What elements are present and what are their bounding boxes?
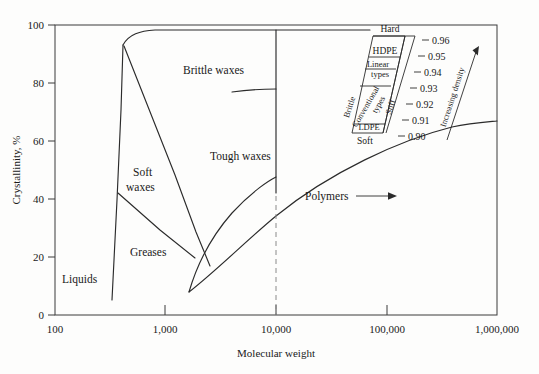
y-tick-label-100: 100 — [28, 19, 45, 31]
x-tick-label-10000: 10,000 — [261, 323, 292, 335]
x-tick-label-1000000: 1,000,000 — [475, 323, 520, 335]
y-axis-ticks — [48, 25, 55, 315]
x-tick-label-100000: 100,000 — [369, 323, 405, 335]
liquids-boundary-curve — [112, 45, 123, 300]
y-tick-label-80: 80 — [33, 77, 45, 89]
top-plateau-curve — [123, 30, 370, 45]
brittle-tough-divider — [232, 89, 276, 92]
x-tick-label-1000: 1,000 — [153, 323, 178, 335]
density-label-ldpe: LDPE — [358, 122, 379, 132]
density-label-hdpe: HDPE — [373, 46, 398, 56]
density-scale-diagram: Hard Soft HDPE Linear types Conventional… — [341, 24, 479, 146]
region-label-soft-waxes-line1: Soft — [133, 166, 153, 178]
y-axis-title: Crystallinity, % — [10, 136, 22, 205]
region-label-soft-waxes-line2: waxes — [126, 181, 155, 193]
chart-page: 100 80 60 40 20 0 100 1,000 10,000 100,0… — [0, 0, 539, 374]
density-label-linear-line2: types — [371, 69, 389, 79]
toughwaxes-upper-boundary — [189, 177, 276, 292]
x-tick-label-100: 100 — [47, 323, 64, 335]
region-label-brittle-waxes: Brittle waxes — [183, 64, 245, 76]
region-label-greases: Greases — [130, 246, 167, 258]
y-tick-label-40: 40 — [33, 193, 45, 205]
density-value-095: 0.95 — [428, 51, 446, 62]
x-axis-title: Molecular weight — [237, 347, 315, 359]
polymers-annotation: Polymers — [305, 190, 397, 203]
y-axis-tick-labels: 100 80 60 40 20 0 — [28, 19, 45, 321]
density-label-soft: Soft — [357, 136, 373, 146]
density-value-092: 0.92 — [416, 99, 434, 110]
region-label-liquids: Liquids — [62, 273, 98, 286]
density-value-091: 0.91 — [412, 115, 430, 126]
y-tick-label-20: 20 — [33, 251, 45, 263]
density-value-093: 0.93 — [420, 83, 438, 94]
polymers-curve — [189, 121, 497, 292]
x-axis-tick-labels: 100 1,000 10,000 100,000 1,000,000 — [47, 323, 520, 335]
density-label-hard: Hard — [381, 24, 400, 34]
increasing-density-label: Increasing density — [438, 65, 467, 128]
density-label-linear-line1: Linear — [367, 59, 389, 69]
polymers-arrowhead — [388, 192, 397, 200]
region-label-tough-waxes: Tough waxes — [210, 150, 271, 163]
density-value-094: 0.94 — [424, 67, 442, 78]
y-tick-label-60: 60 — [33, 135, 45, 147]
density-value-096: 0.96 — [432, 35, 450, 46]
region-label-polymers: Polymers — [305, 190, 349, 203]
density-value-090: 0.90 — [408, 131, 426, 142]
crystallinity-molecular-weight-diagram: 100 80 60 40 20 0 100 1,000 10,000 100,0… — [0, 0, 539, 374]
brittle-softwaxes-boundary — [124, 46, 210, 266]
y-tick-label-0: 0 — [39, 309, 45, 321]
